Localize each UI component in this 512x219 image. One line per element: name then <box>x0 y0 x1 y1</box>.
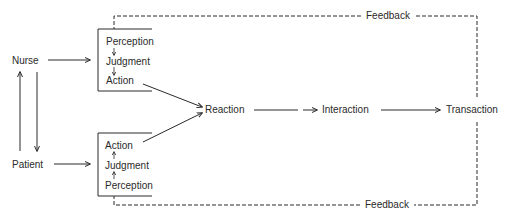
nurse-perception-label: Perception <box>106 36 154 47</box>
reaction-label: Reaction <box>205 104 244 115</box>
feedback-loop-bottom <box>114 122 477 205</box>
patient-perception-label: Perception <box>105 180 153 191</box>
feedback-loop-top <box>114 16 477 97</box>
interaction-label: Interaction <box>322 104 369 115</box>
patient-label: Patient <box>12 159 43 170</box>
patient-action-to-reaction-arrow <box>143 113 202 142</box>
nurse-action-label: Action <box>106 75 134 86</box>
nurse-label: Nurse <box>12 55 39 66</box>
diagram-canvas <box>0 0 512 219</box>
nurse-judgment-label: Judgment <box>106 56 150 67</box>
patient-judgment-label: Judgment <box>105 160 149 171</box>
feedback-bottom-label: Feedback <box>365 199 409 210</box>
transaction-label: Transaction <box>446 104 498 115</box>
patient-action-label: Action <box>105 140 133 151</box>
feedback-top-label: Feedback <box>366 10 410 21</box>
nurse-action-to-reaction-arrow <box>143 84 202 107</box>
